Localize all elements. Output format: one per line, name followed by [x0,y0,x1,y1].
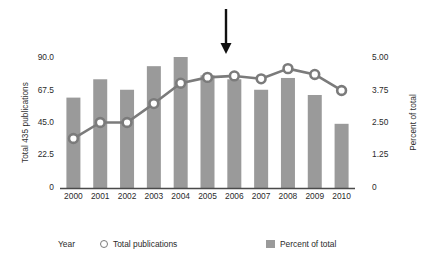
x-tick-2010: 2010 [327,192,357,200]
x-tick-2005: 2005 [193,192,223,200]
x-tick-2002: 2002 [112,192,142,200]
x-tick-2001: 2001 [85,192,115,200]
x-tick-2009: 2009 [300,192,330,200]
legend-x-axis-title: Year [58,240,75,248]
circle-marker-icon [100,240,108,248]
x-tick-2006: 2006 [219,192,249,200]
legend-label-total-publications: Total publications [113,240,177,248]
publications-percent-chart: Total 435 publications 90.0 67.5 45.0 22… [0,0,431,269]
x-tick-2008: 2008 [273,192,303,200]
legend-label-percent-of-total: Percent of total [280,240,336,248]
chart-legend: Year Total publications Percent of total [0,236,431,256]
x-tick-2000: 2000 [58,192,88,200]
x-tick-2007: 2007 [246,192,276,200]
bar-swatch-icon [266,240,275,248]
x-tick-2004: 2004 [166,192,196,200]
x-axis-tick-labels: 2000200120022003200420052006200720082009… [0,0,431,269]
legend-item-percent-of-total: Percent of total [266,240,336,248]
legend-item-total-publications: Total publications [100,240,177,248]
x-tick-2003: 2003 [139,192,169,200]
